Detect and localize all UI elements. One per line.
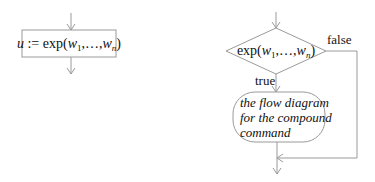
conditional-diagram: exp(w1,…,wn) false true the flow diagram… [226,12,357,174]
true-label: true [255,73,275,88]
flow-diagrams: u := exp(w1,…,wn) exp(w1,…,wn) false tru… [0,0,375,182]
compound-line-3: command [240,125,291,140]
compound-line-1: the flow diagram [240,95,329,110]
assignment-diagram: u := exp(w1,…,wn) [17,13,121,74]
false-label: false [327,32,352,47]
assignment-text: u := exp(w1,…,wn) [17,36,121,53]
condition-text: exp(w1,…,wn) [237,43,316,60]
compound-line-2: for the compound [240,110,332,125]
